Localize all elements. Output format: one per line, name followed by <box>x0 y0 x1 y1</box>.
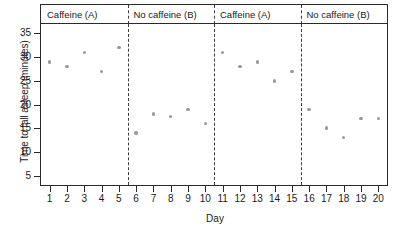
x-axis-tick <box>275 186 276 192</box>
data-point <box>273 79 276 82</box>
y-axis-tick-label: 15 <box>0 123 31 133</box>
x-axis-tick <box>50 186 51 192</box>
data-point <box>256 60 259 63</box>
y-axis-tick-label: 30 <box>0 52 31 62</box>
data-point <box>342 136 345 139</box>
plot-frame: Caffeine (A)No caffeine (B)Caffeine (A)N… <box>40 4 388 186</box>
panel-strip-separator-2 <box>214 5 215 24</box>
x-axis-title: Day <box>40 213 390 224</box>
data-point <box>186 108 189 111</box>
panel-label-2: No caffeine (B) <box>128 5 215 23</box>
x-axis-tick <box>309 186 310 192</box>
data-point <box>377 117 380 120</box>
y-axis-tick-label: 5 <box>0 171 31 181</box>
x-axis-tick <box>171 186 172 192</box>
panel-divider-2 <box>214 24 215 185</box>
x-axis-tick <box>205 186 206 192</box>
x-axis-tick <box>292 186 293 192</box>
panel-label-1: Caffeine (A) <box>41 5 128 23</box>
data-point <box>290 70 293 73</box>
data-point <box>83 51 86 54</box>
data-point <box>152 112 155 115</box>
data-point <box>359 117 362 120</box>
data-point <box>65 65 68 68</box>
data-point <box>238 65 241 68</box>
plot-data-area <box>41 24 387 185</box>
x-axis-tick <box>67 186 68 192</box>
y-axis-tick-label: 35 <box>0 28 31 38</box>
panel-divider-1 <box>128 24 129 185</box>
panel-strip-separator-3 <box>301 5 302 24</box>
x-axis-tick <box>378 186 379 192</box>
data-point <box>100 70 103 73</box>
panel-strip-separator-1 <box>128 5 129 24</box>
x-axis-tick <box>188 186 189 192</box>
panel-strip-band: Caffeine (A)No caffeine (B)Caffeine (A)N… <box>41 5 387 24</box>
panel-label-3: Caffeine (A) <box>214 5 301 23</box>
y-axis-tick-label: 25 <box>0 76 31 86</box>
x-axis-tick <box>240 186 241 192</box>
y-axis-tick-label: 20 <box>0 100 31 110</box>
x-axis-tick <box>84 186 85 192</box>
scatter-chart-figure: Time to fall asleep (minutes) Day 510152… <box>0 0 396 233</box>
x-axis-tick <box>361 186 362 192</box>
data-point <box>325 126 328 129</box>
y-axis-tick-label: 10 <box>0 147 31 157</box>
panel-divider-3 <box>301 24 302 185</box>
panel-label-4: No caffeine (B) <box>301 5 388 23</box>
x-axis-tick <box>136 186 137 192</box>
x-axis-tick-label: 20 <box>368 194 388 204</box>
data-point <box>307 108 310 111</box>
data-point <box>117 46 120 49</box>
x-axis-tick <box>119 186 120 192</box>
x-axis-tick <box>223 186 224 192</box>
x-axis-tick <box>326 186 327 192</box>
x-axis-tick <box>344 186 345 192</box>
data-point <box>134 131 137 134</box>
data-point <box>48 60 51 63</box>
x-axis-tick <box>102 186 103 192</box>
x-axis-tick <box>153 186 154 192</box>
data-point <box>221 51 224 54</box>
data-point <box>169 115 172 118</box>
x-axis-tick <box>257 186 258 192</box>
data-point <box>204 122 207 125</box>
